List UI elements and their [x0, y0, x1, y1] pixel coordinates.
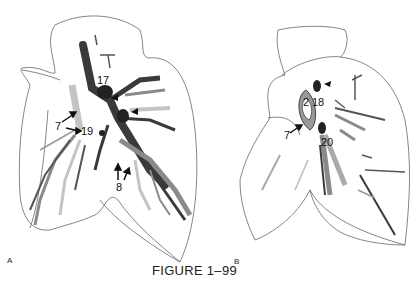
label-8: 8: [116, 182, 122, 193]
figure-caption: FIGURE 1–99: [152, 263, 237, 278]
label-18: 18: [312, 97, 324, 108]
label-7-a: 7: [55, 121, 61, 132]
label-3: 3: [91, 102, 97, 113]
label-4: 4: [112, 123, 118, 134]
label-17: 17: [97, 75, 109, 86]
panel-b-vessels: [262, 75, 405, 235]
label-7-b: 7: [284, 130, 290, 141]
label-19: 19: [81, 126, 93, 137]
lung-diagram: [0, 0, 414, 284]
panel-a-lung-outline: [19, 16, 197, 262]
panel-label-a: A: [7, 256, 12, 265]
label-2: 2: [303, 97, 309, 108]
label-20: 20: [321, 137, 333, 148]
